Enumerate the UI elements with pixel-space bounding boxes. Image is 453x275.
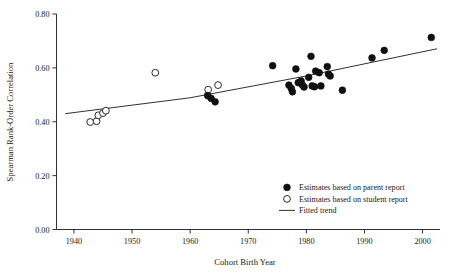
series-parent-report-points [204, 34, 434, 105]
data-point-student-report [215, 82, 222, 89]
x-tick-label: 1990 [356, 237, 372, 246]
x-tick-label: 1980 [298, 237, 314, 246]
data-point-parent-report [428, 34, 435, 41]
legend: Estimates based on parent reportEstimate… [279, 183, 409, 215]
x-tick-label: 1960 [182, 237, 198, 246]
data-point-parent-report [311, 83, 318, 90]
data-point-parent-report [369, 55, 376, 62]
data-point-parent-report [308, 53, 315, 60]
x-tick-label: 2000 [414, 237, 430, 246]
data-point-parent-report [269, 62, 276, 69]
data-point-parent-report [316, 69, 323, 76]
chart-figure: 0.000.200.400.600.80 1940195019601970198… [0, 0, 453, 275]
y-tick-label: 0.60 [35, 64, 49, 73]
legend-item-label: Estimates based on parent report [299, 183, 405, 192]
data-point-parent-report [324, 63, 331, 70]
data-point-parent-report [305, 74, 312, 81]
x-tick-label: 1950 [124, 237, 140, 246]
y-tick-label: 0.20 [35, 172, 49, 181]
x-axis-ticks: 1940195019601970198019902000 [66, 230, 431, 246]
legend-marker-open-circle-icon [284, 196, 291, 203]
y-tick-label: 0.80 [35, 10, 49, 19]
data-point-student-report [152, 69, 159, 76]
legend-item-label: Estimates based on student report [299, 195, 409, 204]
data-point-parent-report [339, 87, 346, 94]
data-point-student-report [87, 119, 94, 126]
legend-item-label: Fitted trend [299, 206, 337, 215]
y-tick-label: 0.00 [35, 226, 49, 235]
fitted-trend-line [65, 49, 437, 114]
data-point-parent-report [381, 47, 388, 54]
data-point-parent-report [301, 84, 308, 91]
scatter-plot: 0.000.200.400.600.80 1940195019601970198… [0, 0, 453, 275]
series-student-report-points [87, 69, 222, 125]
legend-marker-filled-circle-icon [284, 184, 291, 191]
y-axis-title: Spearman Rank-Order Correlation [5, 62, 15, 182]
data-point-parent-report [317, 83, 324, 90]
x-axis-title: Cohort Birth Year [214, 257, 275, 267]
y-axis-ticks: 0.000.200.400.600.80 [35, 10, 56, 235]
y-tick-label: 0.40 [35, 118, 49, 127]
data-point-parent-report [293, 66, 300, 73]
data-point-parent-report [327, 73, 334, 80]
data-point-student-report [102, 107, 109, 114]
data-point-parent-report [289, 88, 296, 95]
x-tick-label: 1970 [240, 237, 256, 246]
x-tick-label: 1940 [66, 237, 82, 246]
data-point-parent-report [212, 98, 219, 105]
